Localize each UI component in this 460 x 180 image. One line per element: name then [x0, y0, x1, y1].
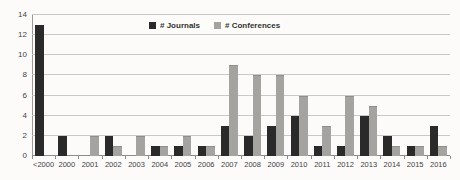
bar-chart: 02468101214 <200020002001200220032004200… [0, 0, 460, 180]
bar-journals-2015 [407, 146, 416, 156]
bar-group-2005 [171, 15, 194, 156]
x-tick-label-2016: 2016 [430, 160, 447, 169]
x-tick-label-2005: 2005 [175, 160, 192, 169]
bar-group-2009 [264, 15, 287, 156]
bar-group-2014 [380, 15, 403, 156]
bar-group-2013 [357, 15, 380, 156]
bar-group-2003 [125, 15, 148, 156]
x-axis-tick [264, 156, 265, 159]
x-tick-label-2001: 2001 [82, 160, 99, 169]
x-axis-tick [334, 156, 335, 159]
x-axis-tick [78, 156, 79, 159]
x-tick-label-2013: 2013 [360, 160, 377, 169]
x-tick-label-2007: 2007 [221, 160, 238, 169]
x-axis-tick [218, 156, 219, 159]
bar-group-2000 [55, 15, 78, 156]
bar-group-2007 [218, 15, 241, 156]
bar-conferences-2012 [345, 96, 354, 156]
legend-swatch-icon [214, 22, 221, 29]
bar-group-2010 [287, 15, 310, 156]
x-tick-label-2015: 2015 [407, 160, 424, 169]
bar-group-2008 [241, 15, 264, 156]
y-tick-label-12: 12 [18, 31, 27, 39]
x-tick-label-2012: 2012 [337, 160, 354, 169]
bar-journals-2007 [221, 126, 230, 156]
bar-group-2001 [78, 15, 101, 156]
x-axis-tick [148, 156, 149, 159]
y-axis: 02468101214 [0, 15, 30, 156]
bar-group-2015 [404, 15, 427, 156]
bar-group-2016 [427, 15, 450, 156]
bar-conferences-2014 [392, 146, 401, 156]
bar-conferences-2003 [136, 136, 145, 156]
bar-conferences-2009 [276, 75, 285, 156]
bar-conferences-2001 [90, 136, 99, 156]
y-tick-label-6: 6 [23, 92, 27, 100]
bar-journals-<2000 [35, 25, 44, 156]
bar-group-<2000 [32, 15, 55, 156]
bar-journals-2005 [174, 146, 183, 156]
x-tick-label-2004: 2004 [151, 160, 168, 169]
legend-label: # Conferences [225, 21, 280, 30]
bar-conferences-2004 [160, 146, 169, 156]
chart-legend: # Journals# Conferences [147, 21, 282, 30]
plot-area [32, 15, 450, 156]
x-tick-label-2000: 2000 [58, 160, 75, 169]
bar-journals-2008 [244, 136, 253, 156]
bar-conferences-2011 [322, 126, 331, 156]
x-axis-tick [55, 156, 56, 159]
bar-conferences-2002 [113, 146, 122, 156]
legend-label: # Journals [160, 21, 200, 30]
x-tick-label-2008: 2008 [244, 160, 261, 169]
x-tick-label-2006: 2006 [198, 160, 215, 169]
x-axis: <200020002001200220032004200520062007200… [32, 156, 450, 180]
x-axis-tick [357, 156, 358, 159]
legend-item-conferences: # Conferences [214, 21, 280, 30]
x-axis-tick [125, 156, 126, 159]
bar-conferences-2005 [183, 136, 192, 156]
bar-journals-2014 [383, 136, 392, 156]
x-axis-tick [241, 156, 242, 159]
bar-conferences-2010 [299, 96, 308, 156]
bar-conferences-2013 [369, 106, 378, 156]
x-axis-tick [287, 156, 288, 159]
bar-journals-2004 [151, 146, 160, 156]
legend-swatch-icon [149, 22, 156, 29]
bar-group-2004 [148, 15, 171, 156]
bar-journals-2011 [314, 146, 323, 156]
x-axis-tick [102, 156, 103, 159]
bar-journals-2012 [337, 146, 346, 156]
bar-journals-2000 [58, 136, 67, 156]
bar-journals-2013 [360, 116, 369, 156]
x-axis-tick [311, 156, 312, 159]
bar-group-2002 [102, 15, 125, 156]
y-tick-label-8: 8 [23, 71, 27, 79]
x-tick-label-<2000: <2000 [33, 160, 54, 169]
y-tick-label-4: 4 [23, 112, 27, 120]
x-tick-label-2011: 2011 [314, 160, 330, 169]
bar-conferences-2016 [438, 146, 447, 156]
y-tick-label-10: 10 [18, 51, 27, 59]
x-tick-label-2010: 2010 [291, 160, 308, 169]
y-tick-label-14: 14 [18, 11, 27, 19]
bar-journals-2006 [198, 146, 207, 156]
x-axis-tick [171, 156, 172, 159]
bar-journals-2002 [105, 136, 114, 156]
x-axis-tick [427, 156, 428, 159]
x-axis-tick [404, 156, 405, 159]
chart-screenshot: 02468101214 <200020002001200220032004200… [0, 0, 460, 180]
legend-item-journals: # Journals [149, 21, 200, 30]
bar-journals-2010 [291, 116, 300, 156]
x-axis-tick [450, 156, 451, 159]
bar-group-2011 [311, 15, 334, 156]
bar-conferences-2006 [206, 146, 215, 156]
bar-conferences-2008 [253, 75, 262, 156]
y-tick-label-0: 0 [23, 152, 27, 160]
bar-conferences-2015 [415, 146, 424, 156]
y-tick-label-2: 2 [23, 132, 27, 140]
x-tick-label-2002: 2002 [105, 160, 122, 169]
bar-journals-2016 [430, 126, 439, 156]
x-tick-label-2009: 2009 [267, 160, 284, 169]
x-tick-label-2014: 2014 [384, 160, 401, 169]
bar-journals-2009 [267, 126, 276, 156]
